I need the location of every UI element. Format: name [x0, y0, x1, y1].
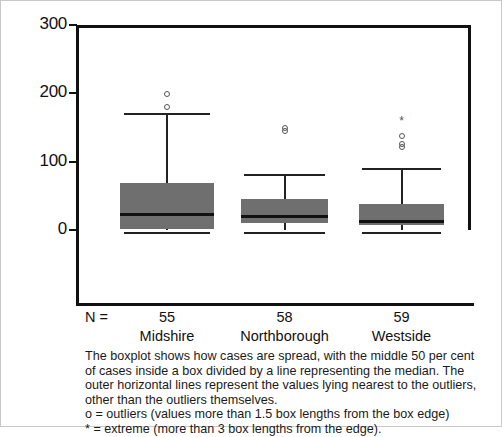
median-line	[120, 213, 214, 216]
upper-whisker-stem	[284, 175, 286, 199]
y-axis-tick	[69, 24, 77, 26]
caption-line: * = extreme (more than 3 box lengths fro…	[85, 422, 485, 437]
x-axis-count-westside: 59	[352, 309, 452, 325]
upper-whisker-cap	[362, 168, 440, 170]
outlier-marker	[399, 133, 405, 139]
box-iqr-rect	[241, 199, 328, 223]
median-line	[359, 220, 444, 223]
x-axis-label-westside: Westside	[332, 328, 472, 344]
y-axis-tick-label: 0	[21, 219, 67, 239]
median-line	[241, 215, 328, 218]
upper-whisker-cap	[244, 174, 324, 176]
lower-whisker-stem	[284, 223, 286, 230]
y-axis-tick	[69, 161, 77, 163]
outlier-marker	[164, 104, 170, 110]
figure-caption: The boxplot shows how cases are spread, …	[85, 349, 485, 437]
y-axis-tick	[69, 229, 77, 231]
caption-line: of cases inside a box divided by a line …	[85, 364, 485, 379]
caption-line: The boxplot shows how cases are spread, …	[85, 349, 485, 364]
x-axis-count-midshire: 55	[117, 309, 217, 325]
outlier-marker	[164, 91, 170, 97]
upper-whisker-stem	[401, 169, 403, 205]
x-axis-line	[76, 303, 474, 306]
lower-whisker-cap	[124, 232, 210, 234]
caption-line: o = outliers (values more than 1.5 box l…	[85, 407, 485, 422]
x-axis-count-northborough: 58	[235, 309, 335, 325]
caption-line: outer horizontal lines represent the val…	[85, 378, 485, 393]
lower-whisker-cap	[244, 232, 324, 234]
n-equals-label: N =	[85, 309, 108, 325]
y-axis-lower-segment	[76, 230, 79, 306]
y-axis-tick-label: 200	[21, 82, 67, 102]
outlier-marker	[399, 141, 405, 147]
box-iqr-rect	[120, 183, 214, 229]
lower-whisker-cap	[362, 232, 440, 234]
extreme-marker: *	[398, 118, 406, 124]
y-axis-tick	[69, 92, 77, 94]
upper-whisker-stem	[166, 114, 168, 183]
outlier-marker	[282, 125, 288, 131]
y-axis-tick-label: 300	[21, 14, 67, 34]
lower-whisker-stem	[166, 229, 168, 230]
y-axis-tick-label: 100	[21, 151, 67, 171]
lower-whisker-stem	[401, 225, 403, 230]
caption-line: other than the outliers themselves.	[85, 393, 485, 408]
upper-whisker-cap	[124, 113, 210, 115]
